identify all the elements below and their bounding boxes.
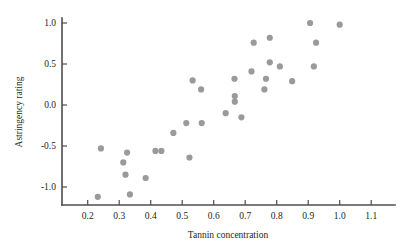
y-axis-title: Astringency rating xyxy=(14,76,24,147)
x-tick-label-group: 0.20.30.40.50.60.70.80.91.01.1 xyxy=(82,211,378,221)
x-axis: 0.20.30.40.50.60.70.80.91.01.1 xyxy=(62,200,395,221)
data-point xyxy=(231,76,237,82)
data-point xyxy=(143,175,149,181)
data-point xyxy=(170,130,176,136)
data-point xyxy=(189,77,195,83)
x-axis-title: Tannin concentration xyxy=(188,230,269,240)
data-point xyxy=(120,159,126,165)
x-tick-label: 0.2 xyxy=(82,211,94,221)
data-point xyxy=(263,76,269,82)
data-point xyxy=(261,86,267,92)
x-tick-label: 1.1 xyxy=(365,211,377,221)
data-point xyxy=(223,110,229,116)
data-point xyxy=(158,148,164,154)
x-tick-label: 1.0 xyxy=(334,211,346,221)
data-point xyxy=(122,172,128,178)
y-tick-label: 0.5 xyxy=(44,59,56,69)
data-point xyxy=(267,59,273,65)
data-point xyxy=(98,145,104,151)
x-tick-label: 0.4 xyxy=(145,211,157,221)
data-point xyxy=(277,63,283,69)
data-point xyxy=(127,191,133,197)
y-tick-label: 0.0 xyxy=(44,100,56,110)
y-tick-label: -1.0 xyxy=(41,182,56,192)
x-tick-label: 0.6 xyxy=(208,211,220,221)
plot-canvas: 1.00.50.0-0.5-1.0 0.20.30.40.50.60.70.80… xyxy=(0,0,412,251)
data-point xyxy=(152,148,158,154)
data-point xyxy=(289,78,295,84)
data-point xyxy=(183,120,189,126)
data-point xyxy=(232,99,238,105)
y-tick-label: 1.0 xyxy=(44,18,56,28)
data-point xyxy=(313,40,319,46)
data-point xyxy=(199,120,205,126)
y-tick-label: -0.5 xyxy=(41,141,56,151)
x-tick-label: 0.8 xyxy=(271,211,283,221)
x-tick-label: 0.7 xyxy=(239,211,251,221)
data-point xyxy=(95,194,101,200)
x-tick-label: 0.9 xyxy=(302,211,314,221)
data-point xyxy=(251,40,257,46)
data-point xyxy=(311,63,317,69)
data-point xyxy=(248,68,254,74)
x-tick-label: 0.5 xyxy=(176,211,188,221)
data-point xyxy=(238,114,244,120)
y-tick-label-group: 1.00.50.0-0.5-1.0 xyxy=(41,18,56,192)
y-axis: 1.00.50.0-0.5-1.0 xyxy=(41,18,67,205)
data-point xyxy=(232,93,238,99)
scatter-plot-figure: 1.00.50.0-0.5-1.0 0.20.30.40.50.60.70.80… xyxy=(0,0,412,251)
x-tick-label: 0.3 xyxy=(113,211,125,221)
data-point xyxy=(337,22,343,28)
data-point xyxy=(198,86,204,92)
data-point xyxy=(307,20,313,26)
data-point xyxy=(124,149,130,155)
data-point-group xyxy=(95,20,343,200)
data-point xyxy=(186,154,192,160)
data-point xyxy=(267,35,273,41)
